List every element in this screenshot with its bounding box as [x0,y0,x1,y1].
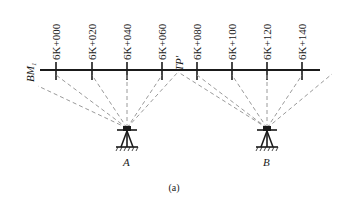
station-label: 6K+120 [261,23,273,60]
station-label: 6K+060 [156,23,168,60]
station-label: 6K+040 [121,23,133,60]
sight-lines-a [38,72,178,128]
station-labels: 6K+000 6K+020 6K+040 6K+060 6K+080 6K+10… [50,23,308,60]
benchmark-label: BM1 [24,63,38,82]
station-label: 6K+000 [50,23,62,60]
turning-point-label: TP' [173,55,185,71]
station-label: 6K+080 [191,23,203,60]
level-instrument-a-icon [116,126,138,151]
station-b-label: B [263,156,270,168]
station-a-label: A [122,156,130,168]
figure-caption: (a) [168,182,179,194]
leveling-diagram: 6K+000 6K+020 6K+040 6K+060 6K+080 6K+10… [0,0,349,202]
station-label: 6K+020 [86,23,98,60]
sight-lines-b [178,72,332,128]
station-label: 6K+140 [296,23,308,60]
station-label: 6K+100 [226,23,238,60]
level-instrument-b-icon [256,126,278,151]
